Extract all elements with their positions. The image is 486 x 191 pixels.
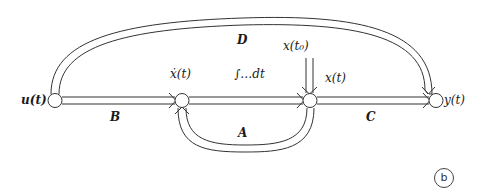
panel-label-badge: b [434, 168, 454, 188]
label-y: y(t) [444, 94, 465, 106]
node-u [48, 94, 62, 108]
label-u: u(t) [21, 94, 47, 106]
label-A: A [238, 127, 247, 139]
edge-C [317, 93, 430, 108]
edge-B [62, 93, 176, 108]
node-xdot [175, 94, 189, 108]
label-B: B [110, 111, 120, 123]
edge-integral [189, 93, 304, 108]
diagram-graphics [0, 0, 486, 191]
edge-x0 [302, 58, 317, 94]
label-D: D [237, 34, 247, 46]
node-x [303, 94, 317, 108]
edge-D [51, 17, 435, 94]
label-xdot: ẋ(t) [170, 68, 191, 80]
signal-flow-diagram: u(t) ẋ(t) ∫…dt x(t₀) x(t) y(t) B A C D b [0, 0, 486, 191]
label-x0: x(t₀) [283, 40, 309, 52]
label-integral: ∫…dt [234, 68, 265, 80]
label-C: C [366, 111, 376, 123]
label-x: x(t) [325, 72, 346, 84]
node-y [429, 94, 443, 108]
